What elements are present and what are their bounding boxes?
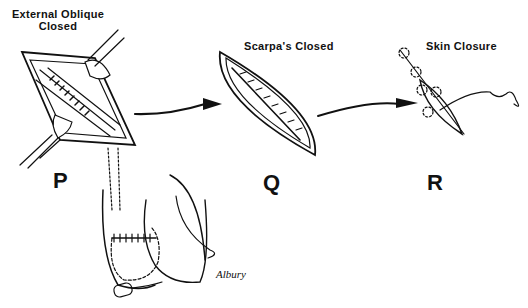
panel-q-drawing [220,52,315,155]
surgical-illustration: Albury [0,0,528,308]
panel-p-drawing [20,30,135,210]
signature: Albury [215,268,246,280]
panel-r-drawing [399,48,519,134]
